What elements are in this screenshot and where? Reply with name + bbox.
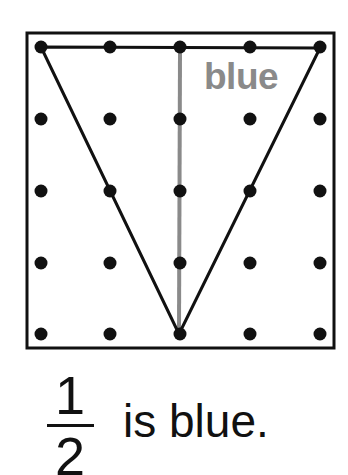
peg-dot <box>174 328 187 341</box>
peg-dot <box>174 185 187 198</box>
peg-dot <box>314 328 327 341</box>
peg-dot <box>104 328 117 341</box>
peg-dot <box>314 185 327 198</box>
geoboard: blue <box>0 0 348 360</box>
peg-dot <box>314 257 327 270</box>
peg-dot <box>35 185 48 198</box>
peg-dot <box>244 328 257 341</box>
caption-text: is blue. <box>123 398 269 444</box>
peg-dot <box>244 41 257 54</box>
peg-dot <box>104 41 117 54</box>
peg-dot <box>244 113 257 126</box>
peg-dot <box>104 185 117 198</box>
peg-dot <box>314 41 327 54</box>
peg-dot <box>314 113 327 126</box>
geoboard-figure <box>0 0 348 360</box>
peg-dot <box>174 257 187 270</box>
peg-dot <box>104 113 117 126</box>
peg-dot <box>174 41 187 54</box>
peg-dot <box>35 257 48 270</box>
region-label: blue <box>204 58 278 95</box>
fraction-denominator: 2 <box>46 429 94 475</box>
peg-dot <box>174 113 187 126</box>
peg-dot <box>35 113 48 126</box>
peg-dot <box>244 257 257 270</box>
peg-dot <box>35 41 48 54</box>
peg-dot <box>104 257 117 270</box>
fraction-numerator: 1 <box>46 368 94 424</box>
peg-dot <box>244 185 257 198</box>
fraction: 1 2 <box>46 368 94 475</box>
caption: 1 2 is blue. <box>0 360 348 475</box>
peg-dot <box>35 328 48 341</box>
